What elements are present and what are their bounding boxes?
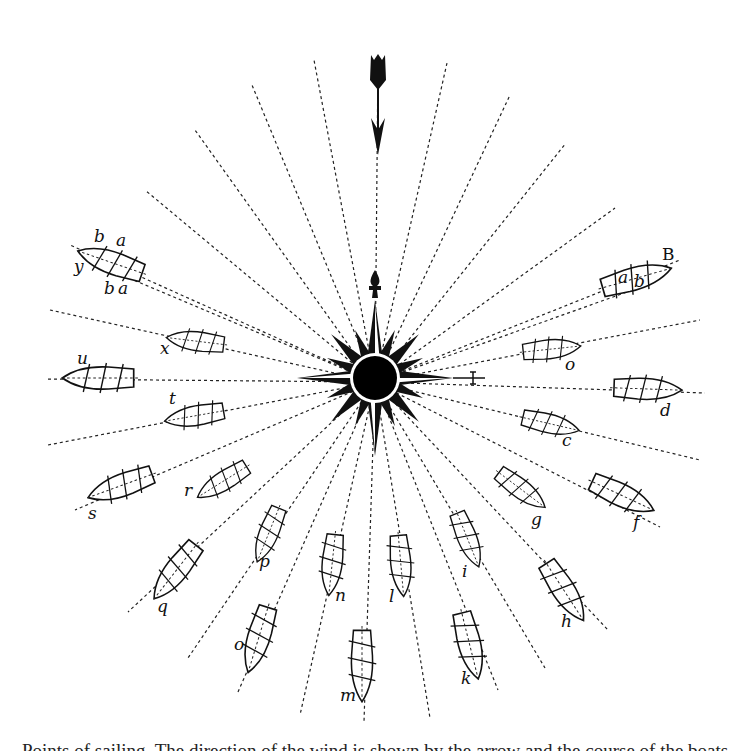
label-o-lower: o [234,634,244,654]
boat-g [489,460,555,518]
figure-caption: Points of sailing. The direction of the … [22,737,742,751]
boat-x [163,325,229,358]
label-l: l [389,586,394,606]
boat-c [517,404,584,443]
wind-arrow-icon [370,54,386,155]
label-a-top: a [116,230,126,250]
points-of-sailing-diagram: b a y b a B a b x o u d t c s f r g p i … [0,0,743,751]
label-k: k [461,668,471,688]
label-o-upper: o [565,354,575,374]
label-i: i [462,561,467,581]
boat-d [610,373,685,404]
label-n: n [335,585,346,605]
label-a-B: a [618,267,628,287]
label-p: p [259,551,270,571]
boat-u [60,363,138,393]
boat-i [444,505,491,573]
boat-r [189,454,256,509]
label-u: u [77,348,88,368]
label-b-bottom: b [104,278,115,298]
label-r: r [184,480,193,500]
label-h: h [561,611,572,631]
label-a-bottom: a [118,278,128,298]
boat-f [582,466,662,524]
label-x: x [160,338,170,358]
label-s: s [88,503,97,523]
boats [60,236,684,704]
label-y: y [73,256,84,276]
label-g: g [531,509,542,529]
label-m: m [340,685,356,705]
label-d: d [660,400,671,420]
label-B: B [662,244,675,264]
boat-q [141,533,210,610]
label-t: t [169,388,176,408]
label-b-top: b [94,226,105,246]
label-f: f [631,512,642,532]
label-q: q [157,596,168,616]
label-b-B: b [634,271,645,291]
label-c: c [562,430,572,450]
